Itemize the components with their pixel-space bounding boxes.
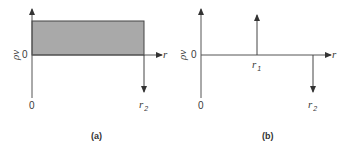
y-zero-label-a: 0 xyxy=(22,50,28,60)
impulse-label-r2-b-sub: 2 xyxy=(313,105,317,112)
impulse-label-r1-b-main: r xyxy=(252,58,256,70)
panel-b xyxy=(201,9,331,98)
impulse-label-r1-b-sub: 1 xyxy=(257,65,261,72)
x-axis-label-a: r xyxy=(163,49,167,59)
marker-label-r2-a-main: r xyxy=(139,98,143,110)
x-axis-label-b: r xyxy=(332,49,336,59)
y-axis-label-b: ρv xyxy=(177,50,187,60)
caption-b: (b) xyxy=(262,131,274,141)
origin-label-b: 0 xyxy=(198,101,204,111)
marker-label-r2-a: r2 xyxy=(139,99,148,111)
impulse-label-r2-b-main: r xyxy=(308,98,312,110)
y-zero-label-b: 0 xyxy=(191,50,197,60)
panel-a xyxy=(32,9,162,98)
origin-label-a: 0 xyxy=(29,101,35,111)
impulse-label-r2-b: r2 xyxy=(308,99,317,111)
diagram-canvas xyxy=(0,0,348,147)
caption-a: (a) xyxy=(91,131,102,141)
y-axis-label-a: ρv xyxy=(10,50,20,60)
marker-label-r2-a-sub: 2 xyxy=(144,105,148,112)
impulse-label-r1-b: r1 xyxy=(252,59,261,71)
shaded-region xyxy=(32,21,144,55)
